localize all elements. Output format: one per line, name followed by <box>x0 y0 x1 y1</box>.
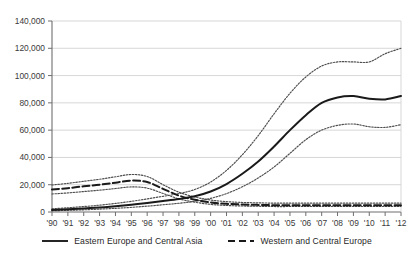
x-axis-tick-label: '12 <box>396 218 407 228</box>
x-axis-tick-label: '95 <box>126 218 137 228</box>
x-axis-tick-label: '03 <box>253 218 264 228</box>
y-axis-tick-label: 80,000 <box>19 98 45 108</box>
y-axis-tick-label: 100,000 <box>15 71 46 81</box>
x-axis-tick-label: '92 <box>78 218 89 228</box>
x-axis-tick-label: '96 <box>142 218 153 228</box>
series-line <box>52 96 401 210</box>
x-axis-tick-label: '97 <box>158 218 169 228</box>
x-axis-tick-label: '10 <box>364 218 375 228</box>
y-axis-tick-label: 120,000 <box>15 43 46 53</box>
chart-figure: 020,00040,00060,00080,000100,000120,0001… <box>0 0 414 254</box>
x-axis-tick-label: '11 <box>380 218 391 228</box>
legend-item-western-and-central-europe: Western and Central Europe <box>228 236 371 246</box>
x-axis-tick-label: '00 <box>205 218 216 228</box>
legend-swatch-solid-icon <box>42 237 68 245</box>
x-axis-tick-label: '06 <box>300 218 311 228</box>
x-axis-tick-label: '01 <box>221 218 232 228</box>
x-axis-tick-label: '08 <box>332 218 343 228</box>
y-axis-tick-label: 60,000 <box>19 125 45 135</box>
line-chart: 020,00040,00060,00080,000100,000120,0001… <box>0 0 414 254</box>
legend-swatch-dashed-icon <box>228 237 254 245</box>
x-axis-tick-label: '04 <box>269 218 280 228</box>
legend-label-western-and-central-europe: Western and Central Europe <box>260 236 371 246</box>
x-axis-tick-label: '07 <box>316 218 327 228</box>
x-axis-tick-label: '93 <box>94 218 105 228</box>
series-line <box>52 124 401 211</box>
chart-legend: Eastern Europe and Central Asia Western … <box>0 228 414 254</box>
y-axis-tick-label: 0 <box>40 207 45 217</box>
x-axis-tick-label: '98 <box>173 218 184 228</box>
legend-label-eastern-europe-and-central-asia: Eastern Europe and Central Asia <box>74 236 202 246</box>
y-axis-tick-label: 140,000 <box>15 16 46 26</box>
x-axis-tick-label: '91 <box>62 218 73 228</box>
x-axis-tick-label: '05 <box>284 218 295 228</box>
x-axis-tick-label: '94 <box>110 218 121 228</box>
x-axis-tick-label: '90 <box>47 218 58 228</box>
x-axis-tick-label: '09 <box>348 218 359 228</box>
legend-item-eastern-europe-and-central-asia: Eastern Europe and Central Asia <box>42 236 202 246</box>
y-axis-tick-label: 20,000 <box>19 180 45 190</box>
x-axis-tick-label: '02 <box>237 218 248 228</box>
series-line <box>52 174 401 203</box>
x-axis-tick-label: '99 <box>189 218 200 228</box>
y-axis-tick-label: 40,000 <box>19 152 45 162</box>
